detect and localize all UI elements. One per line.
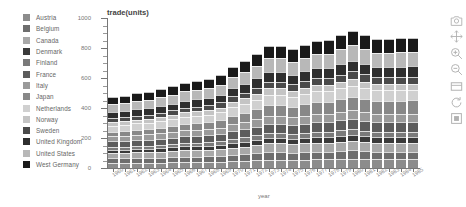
bar-segment[interactable]	[216, 128, 225, 134]
bar-segment[interactable]	[240, 142, 249, 147]
legend-item[interactable]: United States	[22, 148, 82, 159]
bar-segment[interactable]	[348, 71, 357, 79]
bar-segment[interactable]	[372, 53, 381, 67]
bar-segment[interactable]	[168, 115, 177, 119]
bar-segment[interactable]	[204, 146, 213, 150]
bar-segment[interactable]	[240, 61, 249, 72]
bar-segment[interactable]	[156, 89, 165, 97]
bar-segment[interactable]	[192, 136, 201, 143]
bar-segment[interactable]	[132, 101, 141, 109]
bar-segment[interactable]	[156, 133, 165, 138]
bar-segment[interactable]	[300, 58, 309, 72]
bar-segment[interactable]	[252, 153, 261, 160]
bar-segment[interactable]	[156, 128, 165, 134]
legend-item[interactable]: Italy	[22, 80, 82, 91]
bar-segment[interactable]	[216, 102, 225, 107]
bar-segment[interactable]	[132, 140, 141, 146]
bar-segment[interactable]	[168, 126, 177, 132]
bar-segment[interactable]	[300, 71, 309, 81]
bar-segment[interactable]	[336, 130, 345, 135]
bar-segment[interactable]	[372, 101, 381, 114]
bar-segment[interactable]	[408, 52, 417, 66]
bar-segment[interactable]	[300, 116, 309, 124]
pan-icon[interactable]	[450, 30, 463, 43]
bar-segment[interactable]	[144, 129, 153, 134]
bar-segment[interactable]	[132, 116, 141, 120]
bar-segment[interactable]	[156, 117, 165, 121]
plot-modebar[interactable]	[450, 14, 463, 125]
bar-segment[interactable]	[192, 90, 201, 99]
bar-segment[interactable]	[252, 66, 261, 79]
bar-segment[interactable]	[108, 158, 117, 163]
bar-segment[interactable]	[396, 122, 405, 132]
bar-segment[interactable]	[132, 152, 141, 158]
bar-segment[interactable]	[396, 52, 405, 66]
bar-segment[interactable]	[252, 119, 261, 127]
bar-segment[interactable]	[120, 136, 129, 141]
bar-segment[interactable]	[300, 104, 309, 115]
bar-segment[interactable]	[156, 97, 165, 106]
bar-segment[interactable]	[372, 132, 381, 137]
bar-segment[interactable]	[372, 84, 381, 90]
bar-segment[interactable]	[120, 131, 129, 136]
bar-segment[interactable]	[168, 151, 177, 157]
bar-segment[interactable]	[228, 155, 237, 161]
bar-segment[interactable]	[204, 142, 213, 146]
bar-segment[interactable]	[396, 67, 405, 77]
bar-segment[interactable]	[216, 134, 225, 141]
bar-segment[interactable]	[408, 122, 417, 132]
bar-segment[interactable]	[168, 138, 177, 144]
bar-segment[interactable]	[180, 117, 189, 124]
bar-segment[interactable]	[300, 81, 309, 88]
bar-segment[interactable]	[396, 84, 405, 90]
bar-column[interactable]	[276, 46, 285, 168]
bar-segment[interactable]	[312, 114, 321, 122]
bar-segment[interactable]	[324, 40, 333, 54]
bar-segment[interactable]	[276, 124, 285, 133]
bar-segment[interactable]	[180, 143, 189, 147]
bar-segment[interactable]	[396, 101, 405, 114]
bar-column[interactable]	[288, 49, 297, 168]
bar-segment[interactable]	[228, 131, 237, 139]
bar-segment[interactable]	[360, 64, 369, 75]
bar-segment[interactable]	[120, 96, 129, 103]
bar-segment[interactable]	[264, 133, 273, 138]
bar-segment[interactable]	[324, 114, 333, 122]
bar-segment[interactable]	[204, 150, 213, 156]
bar-segment[interactable]	[240, 122, 249, 129]
bar-segment[interactable]	[276, 95, 285, 105]
bar-segment[interactable]	[216, 75, 225, 84]
bar-segment[interactable]	[408, 38, 417, 52]
bar-segment[interactable]	[144, 123, 153, 129]
bar-segment[interactable]	[228, 88, 237, 96]
bar-segment[interactable]	[120, 150, 129, 153]
bar-segment[interactable]	[192, 150, 201, 156]
bar-segment[interactable]	[336, 82, 345, 89]
bar-segment[interactable]	[384, 114, 393, 122]
bar-segment[interactable]	[360, 121, 369, 131]
bar-segment[interactable]	[372, 114, 381, 122]
bar-segment[interactable]	[312, 54, 321, 68]
zoom-in-icon[interactable]	[450, 47, 463, 60]
bar-segment[interactable]	[120, 125, 129, 131]
bar-segment[interactable]	[240, 113, 249, 122]
bar-segment[interactable]	[324, 85, 333, 91]
bar-segment[interactable]	[312, 137, 321, 143]
bar-segment[interactable]	[324, 122, 333, 132]
bar-segment[interactable]	[312, 132, 321, 137]
bar-segment[interactable]	[372, 122, 381, 132]
bar-segment[interactable]	[300, 152, 309, 160]
bar-segment[interactable]	[240, 104, 249, 113]
bar-segment[interactable]	[120, 103, 129, 111]
bar-segment[interactable]	[336, 136, 345, 142]
bar-segment[interactable]	[120, 147, 129, 150]
bar-segment[interactable]	[360, 35, 369, 49]
bar-segment[interactable]	[360, 131, 369, 136]
zoom-out-icon[interactable]	[450, 63, 463, 76]
bar-segment[interactable]	[204, 98, 213, 105]
bar-segment[interactable]	[168, 104, 177, 111]
bar-segment[interactable]	[408, 77, 417, 84]
bar-segment[interactable]	[228, 143, 237, 148]
bar-segment[interactable]	[336, 49, 345, 64]
bar-segment[interactable]	[384, 132, 393, 137]
